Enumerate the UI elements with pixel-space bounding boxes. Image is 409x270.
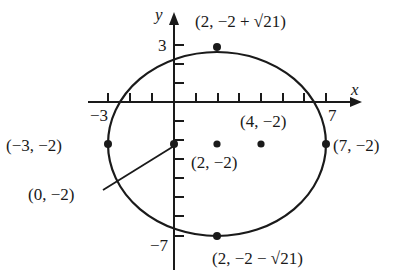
x-axis-ticks xyxy=(108,93,326,102)
label-left-vertex: (−3, −2) xyxy=(6,136,62,155)
x-tick-label-7: 7 xyxy=(328,106,337,125)
point-left-vertex xyxy=(104,140,112,148)
point-center xyxy=(213,140,220,147)
y-intercept-leader-line xyxy=(103,146,174,190)
x-axis-label: x xyxy=(350,80,359,99)
points xyxy=(104,43,330,240)
y-axis-label: y xyxy=(153,5,163,24)
point-right-vertex xyxy=(322,140,330,148)
ellipse-diagram: x −3 7 y 3 −7 xyxy=(0,0,409,270)
label-y-intercept: (0, −2) xyxy=(28,185,74,204)
point-top-vertex xyxy=(213,43,221,51)
y-tick-label-neg7: −7 xyxy=(150,236,169,255)
label-focus: (4, −2) xyxy=(240,112,286,131)
point-bottom-vertex xyxy=(213,232,221,240)
label-top-vertex: (2, −2 + √21) xyxy=(195,12,286,31)
label-right-vertex: (7, −2) xyxy=(333,136,379,155)
label-bottom-vertex: (2, −2 − √21) xyxy=(212,249,303,268)
point-focus xyxy=(257,140,264,147)
y-tick-label-3: 3 xyxy=(158,36,167,55)
point-y-intercept xyxy=(170,140,178,148)
x-tick-label-neg3: −3 xyxy=(90,106,108,125)
y-axis-arrow-icon xyxy=(169,12,179,25)
label-center: (2, −2) xyxy=(191,153,237,172)
